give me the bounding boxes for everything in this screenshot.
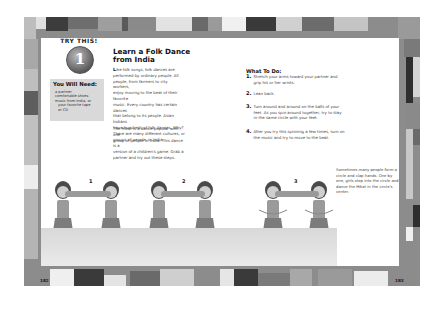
title-line: from India — [113, 56, 190, 64]
figure-label: 1 — [89, 178, 92, 184]
border-tile — [46, 17, 68, 31]
border-tile — [24, 165, 38, 189]
dance-illustration: 1 2 3 — [41, 160, 337, 266]
floor-shading — [41, 228, 337, 266]
paragraph-line: Like folk songs, folk dances are — [113, 67, 185, 73]
border-tile — [192, 17, 208, 31]
border-tile — [318, 269, 352, 286]
border-tile — [74, 269, 104, 286]
paragraph-line: music. Every country has certain dances — [113, 102, 185, 114]
border-tile — [24, 17, 36, 39]
border-tile — [290, 269, 312, 286]
border-tile — [220, 269, 234, 286]
step-number: 3. — [246, 103, 252, 109]
border-tile — [98, 17, 122, 31]
try-this-badge: 1 — [66, 46, 94, 74]
step-item: 2.Lean back. — [246, 91, 352, 97]
supply-item: your favorite tape — [55, 103, 91, 107]
border-tile — [128, 17, 156, 31]
supply-item: or CD — [55, 108, 91, 112]
you-will-need-title: You Will Need: — [53, 81, 97, 87]
border-tile — [302, 17, 334, 31]
border-tile — [68, 17, 98, 29]
border-tile — [24, 189, 38, 259]
border-tile — [24, 91, 38, 115]
border-tile — [406, 103, 420, 129]
paragraph-line: that belong to its people. Asian Indians — [113, 113, 185, 125]
step-text: Lean back. — [254, 91, 346, 97]
border-tile — [413, 57, 420, 97]
paragraph-line: performed by ordinary people. All — [113, 73, 185, 79]
border-tile — [160, 269, 194, 286]
border-tile — [368, 17, 398, 31]
border-tile — [24, 39, 38, 69]
step-item: 1.Stretch your arms toward your partner … — [246, 74, 352, 85]
step-number: 4. — [246, 128, 252, 134]
step-number: 2. — [246, 90, 252, 96]
border-tile — [413, 129, 420, 145]
paragraph-line: The Hikat is a dance popular with one — [113, 126, 185, 138]
border-tile — [36, 17, 46, 29]
border-tile — [130, 271, 160, 286]
border-tile — [104, 275, 126, 286]
border-tile — [276, 17, 302, 31]
border-tile — [404, 39, 420, 57]
step-number: 1. — [246, 73, 252, 79]
you-will-need-box: You Will Need: a partner comfortable sho… — [50, 79, 104, 121]
border-tile — [156, 17, 192, 31]
paragraph-line: people, from farmers to city workers, — [113, 79, 185, 91]
border-tile — [50, 269, 74, 286]
try-this-label: TRY THIS! — [58, 37, 100, 44]
activity-title: Learn a Folk Dance from India — [113, 48, 190, 64]
border-tile — [334, 17, 368, 31]
border-tile — [406, 129, 413, 199]
border-tile — [234, 269, 258, 286]
border-tile — [406, 227, 413, 241]
badge-number: 1 — [67, 50, 93, 68]
step-item: 4.After you try this spinning a few time… — [246, 129, 352, 140]
figure-label: 2 — [182, 178, 185, 184]
supplies-list: a partner comfortable shoes music from I… — [55, 90, 91, 112]
paragraph-line: enjoy moving to the beat of their favori… — [113, 90, 185, 102]
border-tile — [222, 17, 246, 31]
border-tile — [258, 273, 290, 286]
border-tile — [354, 271, 388, 286]
border-tile — [398, 17, 420, 39]
step-item: 3.Turn around and around on the balls of… — [246, 104, 352, 121]
border-tile — [413, 205, 420, 227]
step-text: After you try this spinning a few times,… — [254, 129, 346, 140]
step-text: Stretch your arms toward your partner an… — [254, 74, 346, 85]
figure-label: 3 — [294, 178, 297, 184]
border-tile — [406, 57, 413, 103]
page-number-right: 183 — [395, 278, 404, 283]
border-tile — [208, 17, 222, 31]
border-tile — [24, 115, 38, 165]
border-tile — [246, 17, 276, 31]
step-text: Turn around and around on the balls of y… — [254, 104, 346, 121]
page-number-left: 182 — [40, 278, 49, 283]
paragraph-line: group of people in India. This dance is … — [113, 138, 185, 150]
border-tile — [24, 69, 38, 91]
illustration-caption: Sometimes many people form a circle and … — [336, 167, 400, 195]
hikat-paragraph: The Hikat is a dance popular with one gr… — [113, 126, 185, 161]
